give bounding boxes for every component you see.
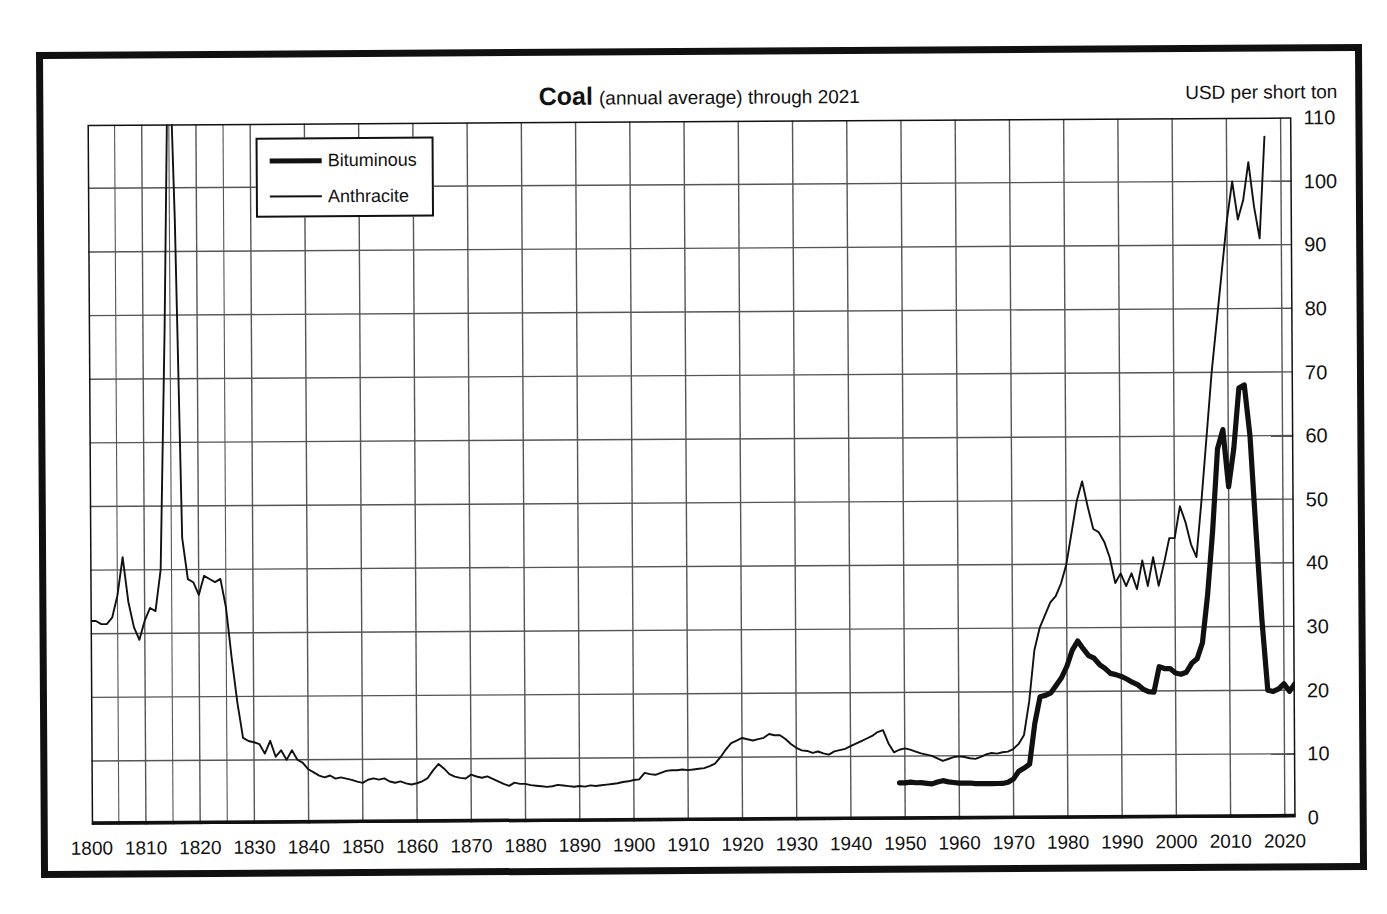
y-tick-label: 0	[1308, 807, 1319, 827]
x-tick-label: 1840	[288, 837, 330, 856]
x-tick-label: 1990	[1101, 832, 1143, 851]
y-tick-label: 10	[1307, 743, 1329, 763]
x-tick-label: 1850	[342, 837, 384, 856]
y-tick-label: 100	[1304, 171, 1337, 191]
x-tick-label: 1860	[396, 837, 438, 856]
plot-wrapper: Bituminous Anthracite 010203040506070809…	[87, 117, 1295, 824]
x-tick-label: 2000	[1155, 832, 1197, 851]
y-tick-label: 90	[1304, 234, 1326, 254]
x-tick-label: 1940	[830, 834, 872, 853]
y-tick-label: 50	[1306, 489, 1328, 509]
chart-frame-inner: Coal (annual average) through 2021 USD p…	[43, 51, 1360, 871]
y-tick-label: 40	[1306, 553, 1328, 573]
x-tick-label: 1950	[884, 834, 926, 853]
screenshot-page: Coal (annual average) through 2021 USD p…	[0, 0, 1387, 914]
x-tick-label: 1830	[233, 838, 275, 857]
y-tick-label: 110	[1303, 107, 1335, 127]
chart-header: Coal (annual average) through 2021 USD p…	[43, 77, 1355, 119]
plot-area: Bituminous Anthracite	[87, 117, 1295, 824]
x-tick-label: 1920	[721, 835, 763, 854]
x-tick-label: 1960	[938, 833, 980, 852]
scan-artifact-text	[600, 0, 880, 10]
x-tick-label: 1820	[179, 838, 221, 857]
x-axis-tick-labels: 1800181018201830184018501860187018801890…	[92, 823, 1296, 870]
legend-label-anthracite: Anthracite	[328, 185, 409, 206]
x-tick-label: 1900	[613, 835, 655, 854]
x-tick-label: 1890	[559, 836, 601, 855]
y-tick-label: 30	[1306, 616, 1328, 636]
legend-item-anthracite: Anthracite	[258, 183, 432, 210]
y-tick-label: 20	[1307, 680, 1329, 700]
x-tick-label: 1800	[71, 839, 113, 858]
x-tick-label: 1930	[776, 834, 818, 853]
legend-label-bituminous: Bituminous	[328, 149, 417, 171]
chart-svg	[87, 117, 1295, 824]
x-tick-label: 1910	[667, 835, 709, 854]
x-tick-label: 1970	[993, 833, 1035, 852]
legend-swatch-bituminous	[270, 158, 322, 163]
x-tick-label: 1980	[1047, 833, 1089, 852]
x-tick-label: 2020	[1264, 831, 1306, 850]
legend-item-bituminous: Bituminous	[258, 147, 432, 174]
x-tick-label: 2010	[1210, 832, 1252, 851]
legend-swatch-anthracite	[270, 195, 322, 197]
chart-legend: Bituminous Anthracite	[256, 137, 434, 218]
page-title: Coal (annual average) through 2021	[43, 77, 1355, 114]
x-tick-label: 1870	[450, 836, 492, 855]
y-axis-unit-label: USD per short ton	[1185, 81, 1337, 104]
y-tick-label: 60	[1305, 425, 1327, 445]
y-tick-label: 70	[1305, 362, 1327, 382]
chart-title-sub: (annual average) through 2021	[599, 86, 860, 109]
y-tick-label: 80	[1305, 298, 1327, 318]
x-tick-label: 1810	[125, 838, 167, 857]
chart-title-main: Coal	[539, 82, 593, 110]
chart-outer-frame: Coal (annual average) through 2021 USD p…	[36, 44, 1367, 878]
y-axis-tick-labels: 0102030405060708090100110	[1291, 117, 1357, 817]
x-tick-label: 1880	[505, 836, 547, 855]
